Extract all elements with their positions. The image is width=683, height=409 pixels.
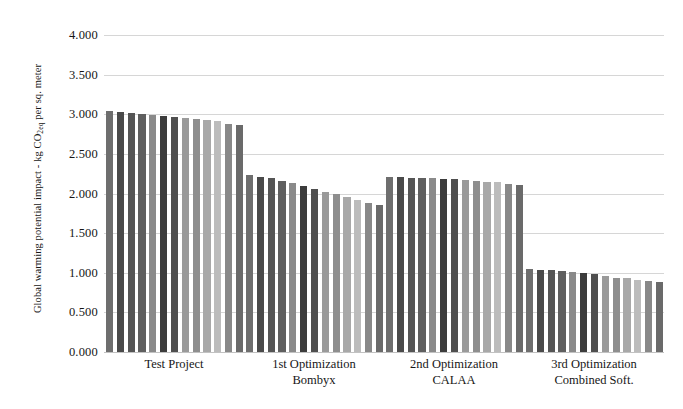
- bar[interactable]: [343, 197, 350, 352]
- y-axis-tick-label: 0.500: [36, 305, 98, 320]
- bar[interactable]: [526, 269, 533, 352]
- bar-group: [526, 35, 663, 352]
- bar[interactable]: [537, 270, 544, 352]
- bar[interactable]: [516, 185, 523, 352]
- bar[interactable]: [386, 177, 393, 352]
- bar[interactable]: [580, 273, 587, 352]
- x-axis-tick-label-line2: CALAA: [384, 373, 524, 389]
- bar[interactable]: [376, 205, 383, 352]
- bar[interactable]: [311, 189, 318, 352]
- bar[interactable]: [300, 186, 307, 352]
- bar[interactable]: [548, 270, 555, 352]
- bar[interactable]: [333, 194, 340, 352]
- bar[interactable]: [203, 120, 210, 352]
- bar-group: [106, 35, 243, 352]
- bar[interactable]: [602, 276, 609, 352]
- x-axis-tick-label-line1: 3rd Optimization: [551, 357, 637, 371]
- bar[interactable]: [225, 124, 232, 352]
- bar[interactable]: [236, 125, 243, 352]
- bar[interactable]: [494, 182, 501, 352]
- bar[interactable]: [462, 180, 469, 352]
- y-axis-tick-label: 1.000: [36, 265, 98, 280]
- bar[interactable]: [645, 281, 652, 352]
- y-axis-tick-label: 2.000: [36, 186, 98, 201]
- x-axis-tick-label: Test Project: [104, 357, 244, 373]
- bar[interactable]: [257, 177, 264, 352]
- bar[interactable]: [193, 119, 200, 352]
- bar-chart: Global warming potential impact - kg CO2…: [0, 0, 683, 409]
- bar[interactable]: [354, 200, 361, 352]
- bar[interactable]: [171, 117, 178, 352]
- bar[interactable]: [623, 278, 630, 352]
- bar-group: [386, 35, 523, 352]
- bar[interactable]: [483, 182, 490, 352]
- y-axis-tick-label: 4.000: [36, 28, 98, 43]
- y-axis-tick-label: 2.500: [36, 146, 98, 161]
- y-axis-tick-label: 0.000: [36, 345, 98, 360]
- bar[interactable]: [289, 183, 296, 352]
- bar[interactable]: [418, 178, 425, 352]
- x-axis-tick-label-line2: Combined Soft.: [524, 373, 664, 389]
- x-axis-tick-label-line1: 1st Optimization: [272, 357, 356, 371]
- y-axis-tick-label: 3.500: [36, 67, 98, 82]
- bar[interactable]: [473, 181, 480, 352]
- bar[interactable]: [558, 271, 565, 352]
- bar[interactable]: [182, 118, 189, 352]
- y-axis-tick-label: 3.000: [36, 107, 98, 122]
- bar[interactable]: [160, 116, 167, 352]
- bar[interactable]: [397, 177, 404, 352]
- y-axis-tick-labels: 0.0000.5001.0001.5002.0002.5003.0003.500…: [36, 0, 98, 409]
- bar[interactable]: [429, 178, 436, 352]
- bar[interactable]: [106, 111, 113, 352]
- bar[interactable]: [656, 282, 663, 352]
- gridline: [104, 352, 664, 353]
- bar[interactable]: [569, 272, 576, 352]
- bar[interactable]: [613, 278, 620, 352]
- plot-area: [104, 35, 664, 352]
- bars-layer: [104, 35, 664, 352]
- bar[interactable]: [278, 181, 285, 352]
- bar[interactable]: [365, 203, 372, 352]
- bar[interactable]: [128, 113, 135, 352]
- bar[interactable]: [634, 280, 641, 352]
- bar-group: [246, 35, 383, 352]
- bar[interactable]: [268, 178, 275, 352]
- bar[interactable]: [322, 192, 329, 352]
- x-axis-tick-label-line2: Bombyx: [244, 373, 384, 389]
- bar[interactable]: [591, 274, 598, 352]
- bar[interactable]: [246, 175, 253, 352]
- bar[interactable]: [408, 178, 415, 352]
- bar[interactable]: [117, 112, 124, 352]
- x-axis-tick-label-line1: Test Project: [144, 357, 203, 371]
- y-axis-tick-label: 1.500: [36, 226, 98, 241]
- bar[interactable]: [440, 179, 447, 352]
- bar[interactable]: [138, 114, 145, 352]
- x-axis-tick-label: 2nd OptimizationCALAA: [384, 357, 524, 388]
- x-axis-tick-label-line1: 2nd Optimization: [410, 357, 498, 371]
- bar[interactable]: [505, 184, 512, 352]
- bar[interactable]: [214, 121, 221, 352]
- x-axis-tick-label: 3rd OptimizationCombined Soft.: [524, 357, 664, 388]
- bar[interactable]: [451, 179, 458, 352]
- x-axis-tick-label: 1st OptimizationBombyx: [244, 357, 384, 388]
- bar[interactable]: [149, 115, 156, 352]
- x-axis-tick-labels: Test Project1st OptimizationBombyx2nd Op…: [104, 357, 664, 405]
